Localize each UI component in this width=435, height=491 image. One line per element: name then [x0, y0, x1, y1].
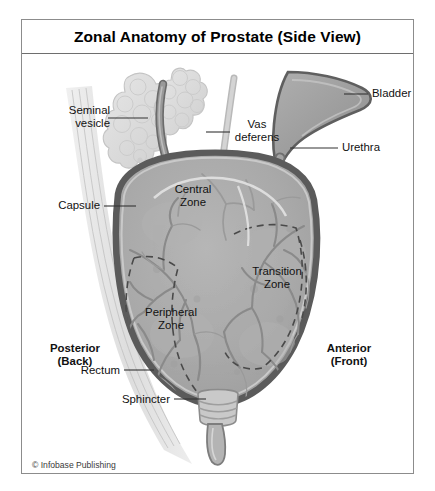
label-peripheral-zone: Peripheral Zone — [126, 306, 216, 332]
label-vas-deferens: Vas deferens — [226, 118, 288, 144]
sphincter-structure — [198, 390, 238, 465]
copyright-notice: © Infobase Publishing — [32, 460, 116, 470]
page-title: Zonal Anatomy of Prostate (Side View) — [74, 28, 361, 46]
label-bladder: Bladder — [372, 87, 411, 100]
diagram-canvas: Seminal vesicle Vas deferens Bladder Ure… — [22, 54, 413, 474]
figure-title-bar: Zonal Anatomy of Prostate (Side View) — [22, 20, 413, 54]
label-urethra: Urethra — [342, 141, 380, 154]
label-capsule: Capsule — [44, 199, 100, 212]
label-seminal-vesicle: Seminal vesicle — [36, 104, 110, 130]
label-rectum: Rectum — [54, 364, 120, 377]
label-central-zone: Central Zone — [158, 183, 228, 209]
label-anterior: Anterior (Front) — [306, 342, 392, 368]
label-sphincter: Sphincter — [90, 393, 170, 406]
figure-frame: Zonal Anatomy of Prostate (Side View) — [21, 19, 414, 474]
label-transition-zone: Transition Zone — [234, 265, 320, 291]
figure-root: Zonal Anatomy of Prostate (Side View) — [0, 0, 435, 491]
